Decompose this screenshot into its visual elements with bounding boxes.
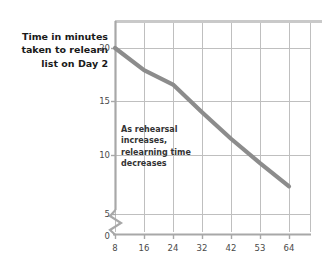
x-tick-label-1: 16 [139,243,150,253]
x-tick-label-0: 8 [112,243,117,253]
y-tick-label-5: 5 [94,209,110,219]
y-tick-label-20: 20 [94,43,110,53]
y-axis-title: Time in minutes taken to relearn list on… [8,30,108,70]
y-tick-label-15: 15 [94,96,110,106]
x-tick-label-5: 53 [255,243,266,253]
x-tick-label-3: 32 [197,243,208,253]
y-axis-title-line-2: taken to relearn [8,43,108,56]
y-tick-label-10: 10 [94,150,110,160]
y-axis-title-line-1: Time in minutes [8,30,108,43]
annotation-line-1: As rehearsal [121,124,201,135]
x-tick-label-2: 24 [168,243,179,253]
chart-figure: Time in minutes taken to relearn list on… [0,0,326,259]
x-tick-label-6: 64 [284,243,295,253]
chart-annotation: As rehearsal increases, relearning time … [121,124,201,169]
annotation-line-3: relearning time [121,147,201,158]
x-tick-label-4: 42 [226,243,237,253]
y-tick-label-0: 0 [94,231,110,241]
y-axis-title-line-3: list on Day 2 [8,57,108,70]
annotation-line-2: increases, [121,135,201,146]
annotation-line-4: decreases [121,158,201,169]
